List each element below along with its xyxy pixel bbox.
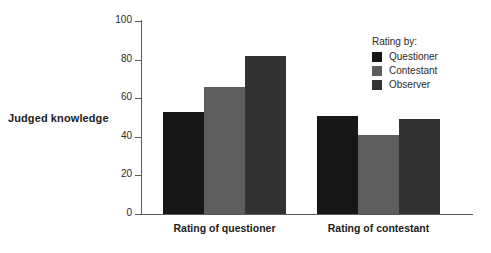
y-axis-tick: 20 xyxy=(105,175,141,176)
legend-item: Contestant xyxy=(372,65,438,76)
bar xyxy=(245,56,286,214)
legend-item-label: Questioner xyxy=(389,51,438,62)
y-axis-tick-label: 80 xyxy=(121,53,132,64)
y-axis-tick: 40 xyxy=(105,137,141,138)
y-axis-tick-label: 0 xyxy=(126,207,132,218)
x-axis-group-label: Rating of contestant xyxy=(317,222,440,234)
y-axis-tick-label: 60 xyxy=(121,91,132,102)
y-axis-tick: 80 xyxy=(105,60,141,61)
bar-chart: Judged knowledge 020406080100 Rating of … xyxy=(0,0,491,253)
bar xyxy=(163,112,204,214)
legend: Rating by: QuestionerContestantObserver xyxy=(372,36,438,93)
legend-title: Rating by: xyxy=(372,36,438,47)
y-axis-tick: 0 xyxy=(105,214,141,215)
bar xyxy=(358,135,399,214)
legend-swatch-icon xyxy=(372,80,382,90)
legend-entries: QuestionerContestantObserver xyxy=(372,51,438,90)
bar xyxy=(204,87,245,214)
y-axis-tick: 60 xyxy=(105,98,141,99)
y-axis-title: Judged knowledge xyxy=(8,112,120,124)
y-axis-tick-label: 40 xyxy=(121,130,132,141)
legend-item-label: Observer xyxy=(389,79,430,90)
y-axis-tick: 100 xyxy=(105,21,141,22)
x-axis-group-label: Rating of questioner xyxy=(163,222,286,234)
bar xyxy=(399,119,440,214)
y-axis-tick-label: 20 xyxy=(121,168,132,179)
legend-item: Questioner xyxy=(372,51,438,62)
legend-swatch-icon xyxy=(372,52,382,62)
x-axis-line xyxy=(141,214,473,215)
legend-item: Observer xyxy=(372,79,438,90)
y-axis-tick-label: 100 xyxy=(115,14,132,25)
legend-item-label: Contestant xyxy=(389,65,437,76)
legend-swatch-icon xyxy=(372,66,382,76)
bar xyxy=(317,116,358,214)
